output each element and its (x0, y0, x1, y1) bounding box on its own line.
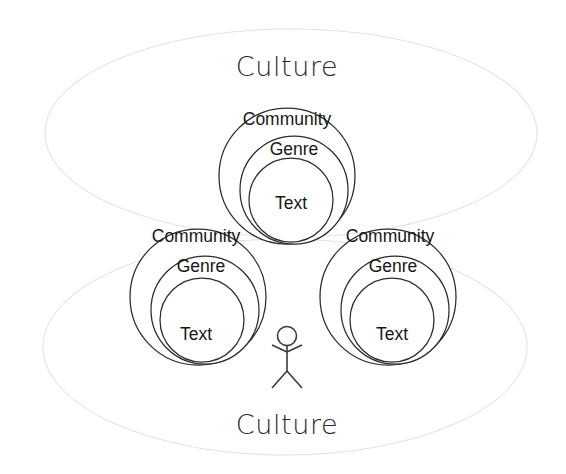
cluster-top (219, 108, 355, 244)
text-circle (160, 278, 244, 362)
cluster-bottom-left (130, 229, 266, 365)
cluster-bottom-right (320, 229, 456, 365)
text-circle (350, 278, 434, 362)
diagram-graphics (0, 0, 566, 474)
diagram-canvas: Culture Culture Community Genre Text Com… (0, 0, 566, 474)
culture-ellipse-bottom (43, 239, 527, 455)
person-head-icon (278, 327, 297, 346)
text-circle (249, 158, 333, 242)
